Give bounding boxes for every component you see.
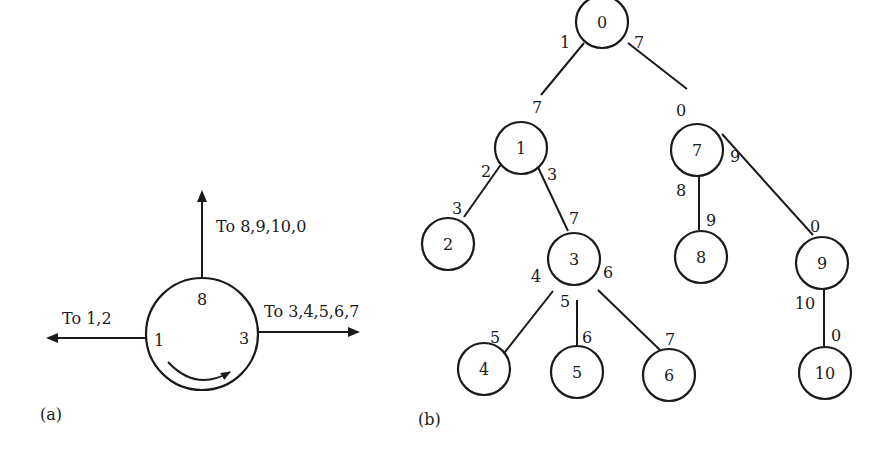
- svg-text:0: 0: [597, 13, 607, 32]
- edge-7-8-to-label: 9: [706, 211, 716, 230]
- edge-1-2-to-label: 3: [452, 199, 462, 218]
- diagram-canvas: To 8,9,10,0 To 1,2 To 3,4,5,6,7 8 1 3 (a…: [0, 0, 892, 455]
- panel-a-label: (a): [40, 405, 62, 424]
- svg-text:1: 1: [516, 139, 526, 158]
- svg-text:7: 7: [692, 141, 702, 160]
- panel-a: To 8,9,10,0 To 1,2 To 3,4,5,6,7 8 1 3 (a…: [40, 192, 359, 424]
- arrow-right-label: To 3,4,5,6,7: [264, 302, 359, 321]
- tree-node-10: 10: [799, 347, 851, 399]
- edge-0-1-to-label: 7: [532, 98, 542, 117]
- edge-3-5-to-label: 6: [582, 328, 592, 347]
- tree-node-4: 4: [458, 343, 510, 395]
- svg-text:6: 6: [664, 366, 674, 385]
- svg-text:5: 5: [572, 363, 582, 382]
- edge-3-6: [598, 290, 660, 350]
- tree-node-5: 5: [551, 346, 603, 398]
- tree-node-0: 0: [576, 0, 628, 48]
- tree-node-6: 6: [643, 349, 695, 401]
- edge-3-6-from-label: 6: [603, 263, 613, 282]
- svg-text:8: 8: [696, 248, 706, 267]
- tree-node-7: 7: [671, 124, 723, 176]
- edge-3-6-to-label: 7: [665, 330, 675, 349]
- edge-3-4-to-label: 5: [490, 328, 500, 347]
- edge-7-8-from-label: 8: [676, 181, 686, 200]
- tree-node-1: 1: [495, 122, 547, 174]
- panel-b-label: (b): [418, 410, 441, 429]
- svg-text:2: 2: [443, 235, 453, 254]
- edge-3-4-from-label: 4: [531, 267, 541, 286]
- edge-9-10-to-label: 0: [831, 326, 841, 345]
- tree-node-2: 2: [422, 218, 474, 270]
- port-label-top: 8: [197, 290, 207, 309]
- svg-text:10: 10: [815, 364, 835, 383]
- tree-node-3: 3: [548, 233, 600, 285]
- tree-node-9: 9: [796, 237, 848, 289]
- edge-1-3-to-label: 7: [569, 209, 579, 228]
- edge-7-9-to-label: 0: [810, 217, 820, 236]
- svg-text:9: 9: [817, 254, 827, 273]
- tree-node-8: 8: [675, 231, 727, 283]
- edge-9-10-from-label: 10: [795, 294, 815, 313]
- edge-0-7-to-label: 0: [676, 101, 686, 120]
- edge-1-3-from-label: 3: [547, 165, 557, 184]
- arrow-up-label: To 8,9,10,0: [216, 217, 306, 236]
- port-label-right: 3: [239, 329, 249, 348]
- edge-7-9-from-label: 9: [730, 147, 740, 166]
- edge-1-2-from-label: 2: [481, 162, 491, 181]
- edge-3-5-from-label: 5: [560, 292, 570, 311]
- panel-b: 0 1 7 2 3 8 9 4: [418, 0, 851, 429]
- edge-0-7-from-label: 7: [634, 33, 644, 52]
- svg-text:3: 3: [569, 250, 579, 269]
- svg-text:4: 4: [479, 360, 489, 379]
- arrow-left-label: To 1,2: [62, 309, 112, 328]
- port-label-left: 1: [154, 331, 164, 350]
- edge-0-1-from-label: 1: [560, 33, 570, 52]
